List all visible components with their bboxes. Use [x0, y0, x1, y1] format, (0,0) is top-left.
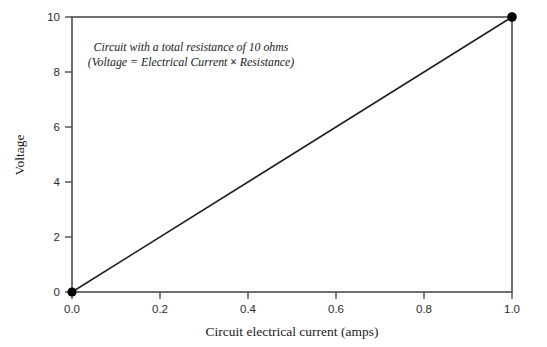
- chart-figure: 0 2 4 6 8 10 0.0 0.2 0.4 0.6 0.8 1.0 Cir…: [0, 0, 547, 347]
- x-tick-label-0-2: 0.2: [152, 303, 168, 315]
- data-point-marker-max: [507, 12, 517, 22]
- x-tick-label-0-8: 0.8: [416, 303, 432, 315]
- y-tick-label-0: 0: [54, 286, 60, 298]
- annotation-line-1: Circuit with a total resistance of 10 oh…: [94, 40, 289, 54]
- annotation-line-2: (Voltage = Electrical Current × Resistan…: [88, 55, 294, 69]
- annotation-line-2-suffix: Resistance): [237, 55, 294, 69]
- x-tick-label-0-6: 0.6: [328, 303, 344, 315]
- x-axis-ticks: [72, 292, 512, 299]
- y-tick-label-2: 2: [54, 231, 60, 243]
- y-tick-label-10: 10: [47, 11, 60, 23]
- x-tick-label-0-4: 0.4: [240, 303, 257, 315]
- x-tick-label-1-0: 1.0: [504, 303, 520, 315]
- x-tick-label-0-0: 0.0: [64, 303, 80, 315]
- y-tick-label-4: 4: [54, 176, 61, 188]
- x-axis-title: Circuit electrical current (amps): [206, 324, 379, 339]
- y-axis-title: Voltage: [12, 134, 27, 175]
- voltage-vs-current-plot: 0 2 4 6 8 10 0.0 0.2 0.4 0.6 0.8 1.0 Cir…: [0, 0, 547, 347]
- y-tick-label-8: 8: [54, 66, 60, 78]
- annotation-line-2-prefix: (Voltage = Electrical Current: [88, 55, 231, 69]
- data-point-marker-origin: [67, 287, 76, 296]
- y-tick-label-6: 6: [54, 121, 60, 133]
- y-axis-ticks: [65, 17, 72, 292]
